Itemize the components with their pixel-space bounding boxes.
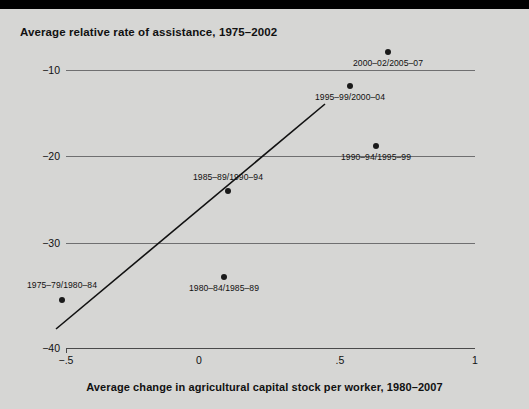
data-point-1975-79-1980-84[interactable] xyxy=(59,297,65,303)
x-axis-line xyxy=(66,348,475,349)
data-point-label-1975-79-1980-84: 1975–79/1980–84 xyxy=(0,280,124,290)
data-point-2000-02-2005-07[interactable] xyxy=(385,49,391,55)
gridline-y--30 xyxy=(66,243,475,244)
data-point-1985-89-1990-94[interactable] xyxy=(225,188,231,194)
data-point-1995-99-2000-04[interactable] xyxy=(347,83,353,89)
trendline xyxy=(0,9,529,409)
x-tick-label-0: 0 xyxy=(179,354,219,366)
chart-plot-area: Average relative rate of assistance, 197… xyxy=(0,9,529,409)
chart-title: Average relative rate of assistance, 197… xyxy=(20,26,277,38)
top-black-bar xyxy=(0,0,529,9)
figure-container: Average relative rate of assistance, 197… xyxy=(0,0,529,409)
y-tick-label--30: −30 xyxy=(18,237,60,249)
x-axis-title: Average change in agricultural capital s… xyxy=(0,381,529,393)
x-tick-mark--0.5 xyxy=(66,348,67,353)
data-point-label-1985-89-1990-94: 1985–89/1990–94 xyxy=(166,172,290,182)
data-point-label-1990-94-1995-99: 1990–94/1995–99 xyxy=(314,152,438,162)
y-tick-label--40: −40 xyxy=(18,342,60,354)
y-tick-label--10: −10 xyxy=(18,64,60,76)
data-point-label-1995-99-2000-04: 1995–99/2000–04 xyxy=(288,92,412,102)
y-tick-label--20: −20 xyxy=(18,150,60,162)
x-tick-label-1: 1 xyxy=(455,354,495,366)
data-point-1980-84-1985-89[interactable] xyxy=(221,274,227,280)
x-tick-label-0.5: .5 xyxy=(320,354,360,366)
data-point-label-2000-02-2005-07: 2000–02/2005–07 xyxy=(326,58,450,68)
x-tick-label--0.5: −.5 xyxy=(46,354,86,366)
data-point-label-1980-84-1985-89: 1980–84/1985–89 xyxy=(162,283,286,293)
gridline-y--10 xyxy=(66,70,475,71)
data-point-1990-94-1995-99[interactable] xyxy=(373,143,379,149)
